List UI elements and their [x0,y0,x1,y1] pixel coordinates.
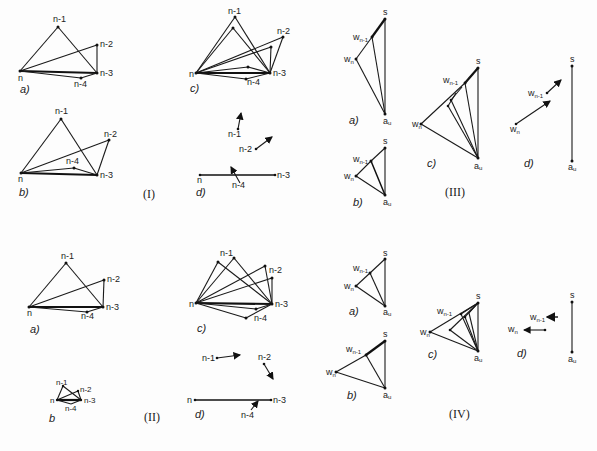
svg-text:au: au [383,307,391,317]
node-label-a-u: au [383,116,391,126]
svg-text:au: au [568,162,576,172]
node-label: n [27,308,32,318]
svg-text:wn: wn [411,119,422,130]
svg-text:wn: wn [507,324,518,335]
svg-text:wn-1: wn-1 [345,344,362,355]
node-label: n-3 [275,299,288,309]
panel-IV-c: s wn-1 wn au c) [419,291,482,363]
node-label: n-3 [84,396,96,405]
node-label-w-n-1: wn-1 [352,263,369,274]
panel-I: n-1 n-2 n-3 n-4 n a) n-1 n-2 n-3 n-4 n b… [18,6,290,201]
node-label-w-n-1: wn-1 [529,312,546,323]
panel-I-a: n-1 n-2 n-3 n-4 n a) [18,14,113,95]
node-label: n-4 [241,410,254,420]
svg-text:au: au [383,390,391,400]
node-label-w-n: wn [411,119,422,130]
panel-IV-a: s wn-1 wn au a) [343,248,391,317]
node-label: n-4 [66,156,79,166]
node-label: n-2 [104,129,117,139]
panel-label-I: (I) [143,187,155,201]
svg-text:au: au [474,161,482,171]
node-label: n [50,396,54,405]
svg-text:wn-1: wn-1 [352,32,369,43]
node-label: n-2 [277,26,290,36]
node-label: n-1 [220,248,233,258]
node-label: s [570,54,575,64]
subfigure-label: a) [20,83,30,95]
node-label: n [18,73,23,83]
subfigure-label: d) [524,157,534,169]
svg-text:wn: wn [419,327,430,338]
node-label-w-n: wn [343,54,354,65]
svg-text:wn-1: wn-1 [529,312,546,323]
svg-text:au: au [383,116,391,126]
subfigure-label: d) [195,408,205,420]
node-label: n [189,299,194,309]
svg-text:wn-1: wn-1 [352,263,369,274]
node-label-a-u: au [568,354,576,364]
node-label: n-2 [239,144,252,154]
node-label: n-3 [100,68,113,78]
panel-I-c: n-1 n-2 n-3 n-4 n c) [189,6,290,94]
node-label: n-1 [53,14,66,24]
panel-II-b: n-1 n-2 n-3 n-4 n b [49,378,96,424]
node-label: s [383,136,388,146]
panel-III-d: s wn-1 wn au d) [509,54,576,172]
subfigure-label: a) [349,114,359,126]
node-label: n-4 [81,311,94,321]
node-label: n-4 [232,180,245,190]
node-label-w-n: wn [343,171,354,182]
node-label: n-4 [74,79,87,89]
panel-IV-b: s wn-1 wn au b) [325,329,391,401]
panel-III-b: s wn-1 wn au b) [343,136,391,208]
panel-IV: s wn-1 wn au a) s wn-1 wn au b) [325,248,576,421]
subfigure-label: c) [428,348,438,360]
node-label: n [189,69,194,79]
subfigure-label: d) [517,347,527,359]
node-label: s [383,7,388,17]
node-label: n-4 [247,77,260,87]
svg-text:wn-1: wn-1 [352,154,369,165]
node-label-a-u: au [383,197,391,207]
svg-text:wn: wn [509,124,520,135]
node-label: n-2 [80,385,92,394]
subfigure-label: b) [347,389,357,401]
node-label: n-1 [228,129,241,139]
node-label: n [18,174,23,184]
svg-text:au: au [383,197,391,207]
panel-label-II: (II) [144,410,160,424]
node-label-a-u: au [568,162,576,172]
node-label: s [570,290,575,300]
subfigure-label: b) [353,196,363,208]
svg-text:wn-1: wn-1 [527,88,544,99]
svg-text:au: au [568,354,576,364]
panel-III-a: s wn-1 wn au a) [343,7,391,126]
panel-II-d: n-1 n-2 n-3 n-4 n d) [187,352,286,420]
node-label: s [383,329,388,339]
node-label: n-2 [107,274,120,284]
svg-text:wn: wn [325,367,336,378]
figure-canvas: n-1 n-2 n-3 n-4 n a) n-1 n-2 n-3 n-4 n b… [0,0,597,451]
subfigure-label: c) [197,322,207,334]
subfigure-label: b) [19,186,29,198]
svg-text:wn-1: wn-1 [436,306,453,317]
node-label-a-u: au [474,161,482,171]
node-label-w-n: wn [325,367,336,378]
svg-text:wn: wn [343,54,354,65]
panel-II-c: n-1 n-2 n-3 n-4 n c) [189,248,288,334]
node-label: s [383,248,388,258]
node-label: n-4 [65,404,77,413]
svg-text:wn-1: wn-1 [442,75,459,86]
node-label: n-1 [56,378,68,387]
svg-text:au: au [474,353,482,363]
subfigure-label: c) [190,82,200,94]
node-label-a-u: au [383,307,391,317]
node-label-w-n: wn [419,327,430,338]
node-label-w-n-1: wn-1 [527,88,544,99]
panel-I-d: n-1 n-2 n-3 n-4 n d) [196,113,290,198]
node-label-w-n-1: wn-1 [352,32,369,43]
node-label: n-2 [269,265,282,275]
node-label-w-n-1: wn-1 [436,306,453,317]
panel-III-c: s wn-1 wn au c) [411,56,482,171]
panel-IV-d: s wn-1 wn au d) [507,290,576,364]
